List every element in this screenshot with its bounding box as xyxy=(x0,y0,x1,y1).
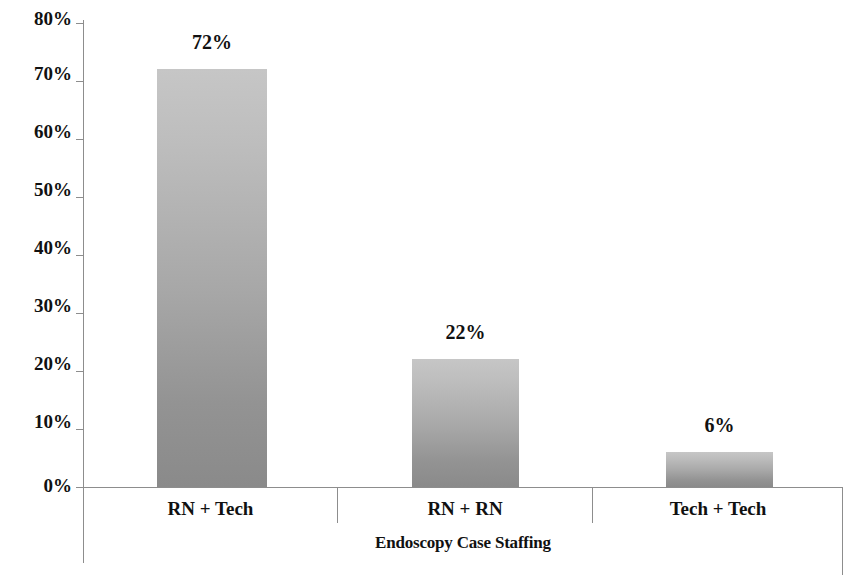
category-label-rn-tech: RN + Tech xyxy=(84,498,337,520)
y-tick-label-50: 50% xyxy=(0,179,72,201)
bar-rn-tech[interactable] xyxy=(157,69,267,487)
y-tick-label-40: 40% xyxy=(0,237,72,259)
y-tick-mark-40 xyxy=(76,255,84,256)
bar-value-rn-rn: 22% xyxy=(412,321,519,344)
y-tick-mark-80 xyxy=(76,23,84,24)
bar-rn-rn[interactable] xyxy=(412,359,519,487)
category-label-tech-tech: Tech + Tech xyxy=(593,498,843,520)
y-tick-label-0: 0% xyxy=(0,475,72,497)
y-tick-label-10: 10% xyxy=(0,411,72,433)
bar-value-tech-tech: 6% xyxy=(666,414,773,437)
y-tick-label-60: 60% xyxy=(0,121,72,143)
y-tick-label-70: 70% xyxy=(0,63,72,85)
y-tick-mark-50 xyxy=(76,197,84,198)
y-tick-mark-20 xyxy=(76,371,84,372)
y-tick-label-30: 30% xyxy=(0,295,72,317)
y-tick-mark-60 xyxy=(76,139,84,140)
y-tick-label-20: 20% xyxy=(0,353,72,375)
y-tick-label-80: 80% xyxy=(0,8,72,30)
y-tick-mark-30 xyxy=(76,313,84,314)
category-label-rn-rn: RN + RN xyxy=(338,498,592,520)
y-axis-line xyxy=(83,20,84,563)
y-tick-mark-10 xyxy=(76,429,84,430)
x-axis-title: Endoscopy Case Staffing xyxy=(83,533,843,553)
y-tick-mark-70 xyxy=(76,81,84,82)
bar-value-rn-tech: 72% xyxy=(157,31,267,54)
bar-chart: 80% 70% 60% 50% 40% 30% 20% 10% 0% 72% 2… xyxy=(0,0,859,575)
bar-tech-tech[interactable] xyxy=(666,452,773,487)
